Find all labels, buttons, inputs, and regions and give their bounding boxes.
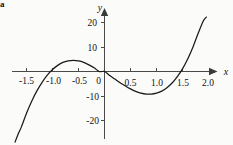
- x-tick-label-7: 2.0: [202, 78, 214, 88]
- y-tick-label-0: 20: [88, 18, 98, 28]
- y-axis-label: y: [97, 2, 103, 13]
- x-tick-label-1: -1.0: [46, 76, 61, 86]
- x-axis-arrow: [209, 68, 218, 75]
- x-tick-label-2: -0.5: [72, 76, 87, 86]
- x-tick-label-3: 0: [96, 76, 101, 86]
- y-tick-label-1: 10: [88, 43, 98, 53]
- y-tick-label-2: -10: [86, 92, 99, 102]
- x-tick-label-5: 1.0: [151, 78, 163, 88]
- x-tick-label-6: 1.5: [177, 78, 189, 88]
- figure-label: a: [0, 0, 5, 9]
- figure-container: a -1.5 -1.0 -0.5 0 0.5 1.0 1: [0, 0, 233, 145]
- cubic-function-plot: -1.5 -1.0 -0.5 0 0.5 1.0 1.5 2.0 20 10 -…: [0, 0, 233, 145]
- y-tick-label-3: -20: [86, 116, 99, 126]
- x-axis-label: x: [223, 66, 229, 77]
- x-tick-label-0: -1.5: [19, 76, 34, 86]
